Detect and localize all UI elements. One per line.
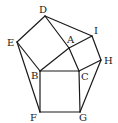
geometry-diagram: A B C D E F G H I [0, 0, 118, 123]
point-label-i: I [94, 25, 98, 36]
diagram-canvas: A B C D E F G H I [0, 0, 118, 123]
segment-ed [17, 16, 45, 42]
point-label-a: A [66, 34, 75, 45]
segments-group [17, 16, 101, 112]
segment-ih [92, 36, 101, 60]
point-label-g: G [79, 112, 87, 123]
segment-hg [80, 60, 101, 112]
point-label-f: F [30, 112, 37, 123]
segment-be [17, 42, 40, 71]
point-label-e: E [7, 37, 14, 48]
segment-ab [40, 48, 69, 71]
point-label-h: H [104, 55, 113, 66]
segment-ac [69, 48, 79, 71]
segment-cg [79, 71, 80, 112]
point-label-d: D [39, 4, 47, 15]
point-label-c: C [81, 71, 89, 82]
point-label-b: B [31, 70, 38, 81]
